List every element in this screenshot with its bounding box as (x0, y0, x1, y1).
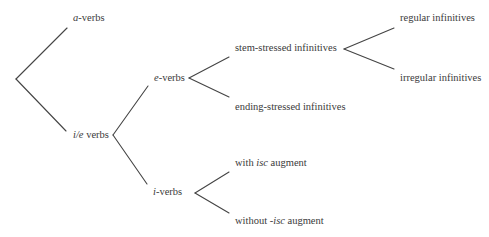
node-ile-verbs: i/e verbs (73, 129, 109, 141)
node-i-verbs: i-verbs (153, 186, 182, 198)
node-with-isc-pre: with (235, 157, 256, 168)
node-regular-infinitives: regular infinitives (400, 12, 475, 24)
edge-ile-e-verbs (113, 86, 148, 135)
node-without-isc-pre: without - (235, 215, 273, 226)
edge-e-stem-stressed (189, 57, 229, 78)
edge-root-a-verbs (16, 28, 67, 79)
node-without-isc-augment: without -isc augment (235, 215, 324, 227)
node-irregular-label: irregular infinitives (400, 72, 481, 83)
node-with-isc-post: augment (268, 157, 307, 168)
edge-e-ending-stressed (189, 78, 229, 97)
edge-stem-regular (344, 28, 394, 49)
node-ile-verbs-italic: i/e (73, 129, 84, 140)
node-ending-stressed: ending-stressed infinitives (235, 101, 346, 113)
node-ending-stressed-label: ending-stressed infinitives (235, 101, 346, 112)
tree-edges (0, 0, 489, 237)
node-a-verbs: a-verbs (73, 12, 105, 24)
node-with-isc-augment: with isc augment (235, 157, 307, 169)
edge-stem-irregular (344, 49, 394, 69)
node-with-isc-italic: isc (256, 157, 268, 168)
node-without-isc-italic: isc (273, 215, 285, 226)
node-e-verbs: e-verbs (154, 72, 185, 84)
node-without-isc-post: augment (285, 215, 324, 226)
node-regular-label: regular infinitives (400, 12, 475, 23)
node-ile-verbs-rest: verbs (84, 129, 109, 140)
edge-ile-i-verbs (113, 135, 147, 184)
verb-classification-tree: a-verbs i/e verbs e-verbs i-verbs stem-s… (0, 0, 489, 237)
edge-root-ile-verbs (16, 79, 66, 131)
node-irregular-infinitives: irregular infinitives (400, 72, 481, 84)
edge-i-with-isc (195, 172, 229, 193)
node-i-verbs-rest: -verbs (156, 186, 182, 197)
node-a-verbs-rest: -verbs (78, 12, 104, 23)
edge-i-without-isc (195, 193, 229, 213)
node-e-verbs-rest: -verbs (159, 72, 185, 83)
node-stem-stressed: stem-stressed infinitives (235, 42, 337, 54)
node-stem-stressed-label: stem-stressed infinitives (235, 42, 337, 53)
